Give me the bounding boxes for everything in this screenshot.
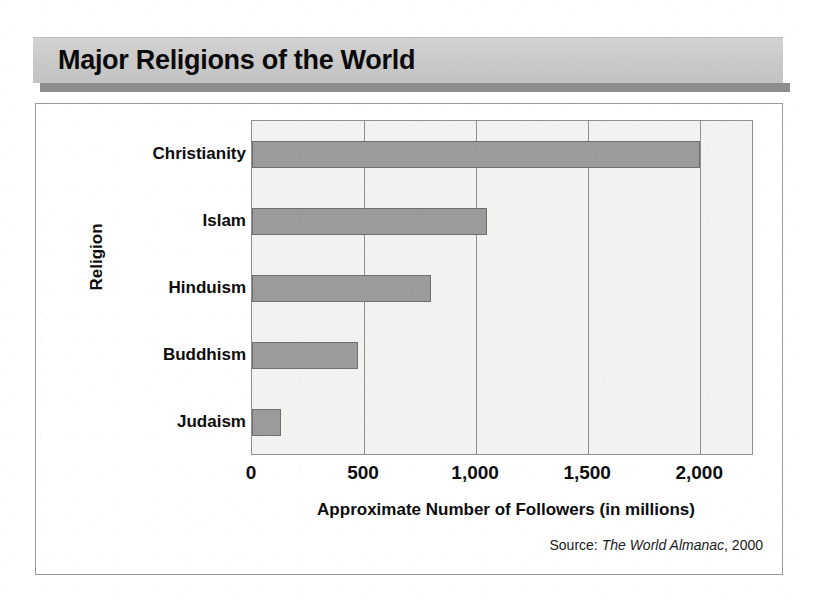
source-work-title: The World Almanac [602, 537, 724, 553]
title-banner-shadow [40, 83, 790, 92]
bar-hinduism [252, 275, 431, 302]
bar-christianity [252, 141, 700, 168]
x-tick-1500: 1,500 [563, 462, 611, 484]
source-prefix: Source: [550, 537, 598, 553]
plot-area [251, 120, 753, 455]
bar-islam [252, 208, 487, 235]
category-label-judaism: Judaism [61, 412, 246, 432]
x-tick-500: 500 [347, 462, 379, 484]
x-axis-tick-labels: 05001,0001,5002,000 [251, 462, 753, 490]
gridline-2000 [700, 121, 701, 454]
gridline-1500 [588, 121, 589, 454]
source-year: , 2000 [724, 537, 763, 553]
y-axis-category-labels: ChristianityIslamHinduismBuddhismJudaism [56, 120, 246, 455]
bar-judaism [252, 409, 281, 436]
gridline-1000 [476, 121, 477, 454]
x-tick-1000: 1,000 [451, 462, 499, 484]
category-label-buddhism: Buddhism [61, 345, 246, 365]
title-banner: Major Religions of the World [33, 37, 783, 83]
x-tick-0: 0 [246, 462, 257, 484]
category-label-christianity: Christianity [61, 144, 246, 164]
bar-buddhism [252, 342, 358, 369]
x-tick-2000: 2,000 [675, 462, 723, 484]
x-axis-title: Approximate Number of Followers (in mill… [251, 500, 761, 520]
y-axis-title: Religion [87, 202, 111, 312]
source-note: Source: The World Almanac, 2000 [550, 537, 764, 553]
chart-title: Major Religions of the World [58, 45, 415, 76]
